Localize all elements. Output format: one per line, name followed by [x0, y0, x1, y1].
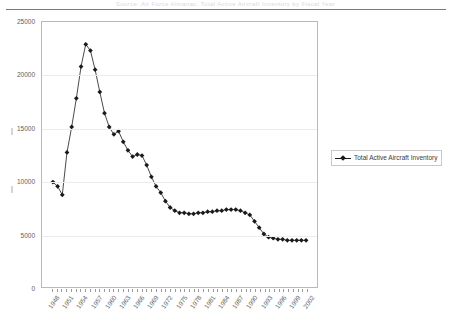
x-tick-mark	[95, 289, 96, 292]
y-tick-label: 10000	[17, 178, 35, 185]
x-tick-mark	[283, 289, 284, 292]
data-point-marker	[229, 207, 234, 212]
x-tick-mark	[142, 289, 143, 292]
x-tick-mark	[198, 289, 199, 292]
x-tick-mark	[274, 289, 275, 292]
series-line-chart	[42, 22, 317, 287]
x-tick-mark	[203, 289, 204, 292]
data-point-marker	[280, 237, 285, 242]
x-tick-mark	[109, 289, 110, 292]
data-point-marker	[299, 238, 304, 243]
data-point-marker	[191, 211, 196, 216]
plot-area	[41, 21, 318, 288]
y-tick-label: 0	[31, 285, 35, 292]
x-tick-mark	[260, 289, 261, 292]
data-point-marker	[140, 153, 145, 158]
x-tick-label: 1981	[203, 294, 217, 310]
gridline	[42, 75, 317, 76]
x-tick-mark	[137, 289, 138, 292]
x-tick-mark	[104, 289, 105, 292]
x-tick-mark	[222, 289, 223, 292]
x-tick-mark	[189, 289, 190, 292]
x-tick-mark	[161, 289, 162, 292]
data-point-marker	[238, 208, 243, 213]
x-tick-mark	[298, 289, 299, 292]
data-point-marker	[79, 64, 84, 69]
x-tick-mark	[269, 289, 270, 292]
chart-legend: Total Active Aircraft Inventory	[331, 150, 442, 166]
data-point-marker	[219, 208, 224, 213]
x-tick-mark	[265, 289, 266, 292]
x-tick-mark	[156, 289, 157, 292]
gridline	[42, 236, 317, 237]
x-tick-mark	[307, 289, 308, 292]
x-tick-mark	[175, 289, 176, 292]
x-tick-label: 1948	[47, 294, 61, 310]
gridline	[42, 129, 317, 130]
x-tick-mark	[146, 289, 147, 292]
x-tick-label: 1960	[103, 294, 117, 310]
data-point-marker	[196, 210, 201, 215]
data-point-marker	[224, 207, 229, 212]
data-point-marker	[276, 237, 281, 242]
data-point-marker	[205, 209, 210, 214]
x-tick-mark	[85, 289, 86, 292]
x-tick-mark	[71, 289, 72, 292]
x-tick-mark	[241, 289, 242, 292]
data-point-marker	[97, 90, 102, 95]
page-header-ghost-text: Source: Air Force Almanac, Total Active …	[0, 0, 451, 8]
data-point-marker	[65, 150, 70, 155]
x-tick-mark	[76, 289, 77, 292]
x-tick-label: 1972	[160, 294, 174, 310]
x-tick-mark	[217, 289, 218, 292]
data-point-marker	[294, 238, 299, 243]
x-tick-label: 1978	[188, 294, 202, 310]
x-tick-label: 1990	[245, 294, 259, 310]
x-tick-mark	[123, 289, 124, 292]
data-point-marker	[215, 208, 220, 213]
x-tick-mark	[99, 289, 100, 292]
x-tick-mark	[227, 289, 228, 292]
data-point-marker	[111, 132, 116, 137]
x-tick-mark	[128, 289, 129, 292]
x-tick-mark	[250, 289, 251, 292]
x-tick-label: 1984	[217, 294, 231, 310]
x-tick-mark	[288, 289, 289, 292]
x-axis: 1948195119541957196019631966196919721975…	[41, 289, 318, 315]
x-tick-mark	[180, 289, 181, 292]
y-tick-label: 15000	[17, 124, 35, 131]
legend-entry-label: Total Active Aircraft Inventory	[354, 154, 437, 162]
x-tick-mark	[231, 289, 232, 292]
x-tick-mark	[61, 289, 62, 292]
x-tick-mark	[255, 289, 256, 292]
y-tick-label: 5000	[21, 231, 35, 238]
x-tick-mark	[208, 289, 209, 292]
x-tick-mark	[194, 289, 195, 292]
data-point-marker	[285, 238, 290, 243]
data-point-marker	[210, 209, 215, 214]
x-tick-mark	[246, 289, 247, 292]
x-tick-mark	[184, 289, 185, 292]
x-tick-mark	[170, 289, 171, 292]
page-header-rule	[6, 9, 446, 10]
x-tick-label: 1993	[259, 294, 273, 310]
y-tick-label: 20000	[17, 71, 35, 78]
x-tick-label: 1966	[132, 294, 146, 310]
x-tick-mark	[66, 289, 67, 292]
x-tick-mark	[302, 289, 303, 292]
x-tick-label: 1975	[174, 294, 188, 310]
x-tick-mark	[57, 289, 58, 292]
data-point-marker	[290, 238, 295, 243]
data-point-marker	[243, 210, 248, 215]
data-point-marker	[74, 96, 79, 101]
legend-marker-icon	[335, 155, 351, 162]
data-point-marker	[135, 152, 140, 157]
x-tick-label: 1951	[61, 294, 75, 310]
x-tick-label: 1954	[75, 294, 89, 310]
x-tick-label: 1963	[118, 294, 132, 310]
x-tick-mark	[165, 289, 166, 292]
x-tick-mark	[118, 289, 119, 292]
data-point-marker	[201, 210, 206, 215]
data-point-marker	[186, 211, 191, 216]
x-tick-mark	[132, 289, 133, 292]
